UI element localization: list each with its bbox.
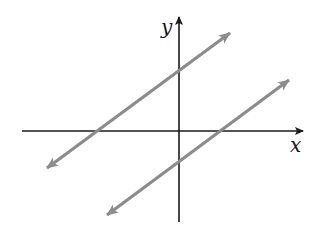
x-axis-label: x	[290, 133, 301, 157]
coordinate-plane: y x	[0, 0, 322, 233]
lower-line	[107, 80, 289, 215]
upper-line	[47, 33, 230, 168]
y-axis-label: y	[160, 15, 173, 39]
